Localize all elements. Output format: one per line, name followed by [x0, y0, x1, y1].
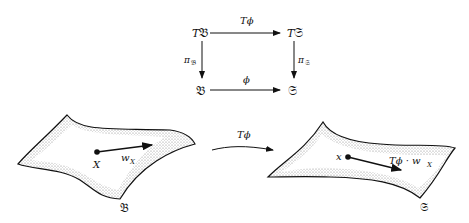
- map-arrow: Tϕ: [212, 129, 273, 150]
- right-point-label: x: [336, 151, 342, 162]
- left-arrow-label: π: [183, 55, 191, 65]
- map-arrow-curve: [212, 147, 273, 150]
- right-surface-label: 𝔖: [420, 200, 429, 214]
- top-arrow-label: Tϕ: [240, 15, 254, 26]
- right-vector-label-sub: X: [426, 161, 433, 169]
- right-vector-label: Tϕ · w: [389, 155, 421, 166]
- top-right-symbol: 𝔖: [294, 25, 303, 40]
- left-point-label: X: [92, 159, 101, 170]
- commutative-diagram: T 𝔅 Tϕ T 𝔖 π 𝔅 π 𝔖 𝔅 ϕ 𝔖: [183, 15, 310, 98]
- right-arrow-label-sub: 𝔖: [305, 59, 310, 67]
- left-arrow-label-sub: 𝔅: [191, 59, 196, 67]
- left-vector-label: w: [121, 152, 130, 163]
- bottom-right-symbol: 𝔖: [288, 83, 297, 98]
- left-vector-label-sub: X: [129, 158, 136, 166]
- top-left-symbol: 𝔅: [199, 25, 208, 40]
- left-surface-label: 𝔅: [120, 201, 129, 215]
- right-surface: x Tϕ · w X 𝔖: [268, 122, 455, 214]
- right-arrow-label: π: [297, 55, 305, 65]
- left-surface: X w X 𝔅: [18, 115, 195, 215]
- bottom-arrow-label: ϕ: [243, 74, 250, 85]
- bottom-left-symbol: 𝔅: [196, 83, 205, 98]
- diagram-canvas: T 𝔅 Tϕ T 𝔖 π 𝔅 π 𝔖 𝔅 ϕ 𝔖 X w X 𝔅 Tϕ: [0, 0, 469, 223]
- map-arrow-label: Tϕ: [237, 129, 251, 140]
